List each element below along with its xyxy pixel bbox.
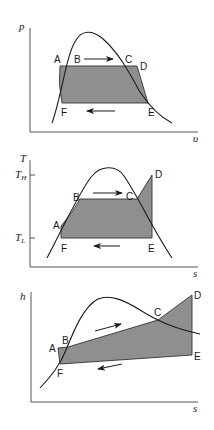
- hs-point-d: D: [194, 290, 201, 301]
- hs-point-c: C: [154, 307, 161, 318]
- ts-point-b: B: [73, 192, 80, 203]
- hs-point-a: A: [49, 343, 56, 354]
- hs-point-e: E: [194, 351, 201, 362]
- hs-point-f: F: [57, 368, 63, 379]
- ts-point-d: D: [155, 169, 162, 180]
- ts-point-c: C: [126, 191, 133, 202]
- hs-ylabel: h: [20, 290, 26, 302]
- pv-point-d: D: [140, 61, 147, 72]
- ts-point-a: A: [53, 220, 60, 231]
- hs-cycle-area: [58, 295, 192, 364]
- thermo-diagrams: p υ A B C D E F T s TH TL A B C D E F h …: [0, 0, 214, 430]
- pv-cycle-area: [59, 66, 148, 103]
- ts-xlabel: s: [193, 267, 197, 279]
- ts-point-f: F: [61, 243, 67, 254]
- pv-diagram: p υ A B C D E F: [18, 20, 198, 144]
- ts-ylabel: T: [20, 152, 27, 164]
- ts-tl-label: TL: [15, 231, 25, 245]
- pv-ylabel: p: [18, 20, 25, 32]
- ts-cycle-area: [61, 175, 152, 238]
- hs-point-b: B: [62, 335, 69, 346]
- hs-arrow-upright-icon: [95, 324, 121, 331]
- pv-point-a: A: [54, 54, 61, 65]
- ts-point-e: E: [148, 243, 155, 254]
- ts-diagram: T s TH TL A B C D E F: [15, 152, 198, 279]
- hs-diagram: h s A B C D E F: [20, 290, 201, 414]
- hs-arrow-left-icon: [98, 364, 122, 369]
- pv-point-c: C: [125, 54, 132, 65]
- pv-point-b: B: [74, 54, 81, 65]
- ts-th-label: TH: [15, 168, 27, 182]
- pv-point-e: E: [148, 107, 155, 118]
- pv-point-f: F: [61, 107, 67, 118]
- hs-xlabel: s: [193, 402, 197, 414]
- pv-xlabel: υ: [193, 132, 198, 144]
